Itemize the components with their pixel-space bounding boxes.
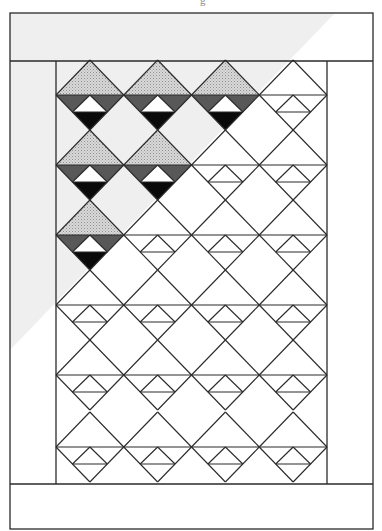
small-triangle-edge [276,375,293,392]
diamond-edge [90,270,124,305]
small-triangle-edge [225,235,242,252]
small-triangle-edge [276,235,293,252]
small-triangle-edge [158,235,175,252]
small-triangle-edge [293,305,310,322]
small-triangle-edge [158,305,175,322]
diamond-edge [293,60,327,95]
diamond-edge [259,200,293,235]
small-triangle-edge [293,447,310,464]
small-triangle-edge [293,95,310,112]
diamond-edge [158,270,192,305]
small-triangle-edge [276,305,293,322]
small-triangle-edge [293,165,310,182]
diamond-edge [293,340,327,375]
small-triangle-edge [158,375,175,392]
small-triangle-edge [208,305,225,322]
small-triangle-edge [293,375,310,392]
diamond-edge [259,270,293,305]
small-triangle-edge [276,165,293,182]
small-triangle-edge [208,447,225,464]
diamond-edge [192,270,226,305]
small-triangle-edge [72,305,89,322]
small-triangle-edge [276,95,293,112]
small-triangle-edge [208,165,225,182]
diamond-edge [225,200,259,235]
diamond-edge [124,270,158,305]
small-triangle-edge [90,375,107,392]
small-triangle-edge [140,235,157,252]
small-triangle-edge [158,447,175,464]
small-triangle-edge [72,447,89,464]
small-triangle-edge [225,305,242,322]
small-triangle-edge [225,447,242,464]
small-triangle-edge [90,447,107,464]
small-triangle-edge [225,165,242,182]
diamond-edge [56,412,90,447]
diamond-edge [56,340,90,375]
small-triangle-edge [208,235,225,252]
small-triangle-edge [72,375,89,392]
small-triangle-edge [293,235,310,252]
small-triangle-edge [90,305,107,322]
diamond-edge [158,200,192,235]
diamond-edge [90,340,124,375]
diamond-edge [158,412,192,447]
diamond-edge [225,340,259,375]
diamond-edge [259,412,293,447]
diamond-edge [90,412,124,447]
small-triangle-edge [140,375,157,392]
quilt-diagram [0,0,382,531]
diamond-edge [293,130,327,165]
small-triangle-edge [140,447,157,464]
diamond-edge [293,270,327,305]
small-triangle-edge [225,375,242,392]
diamond-edge [158,340,192,375]
small-triangle-edge [140,305,157,322]
diamond-edge [225,130,259,165]
diamond-edge [259,130,293,165]
small-triangle-edge [276,447,293,464]
diamond-edge [192,200,226,235]
diamond-edge [192,412,226,447]
diamond-edge [293,200,327,235]
diamond-edge [293,412,327,447]
diamond-edge [192,340,226,375]
diamond-edge [259,340,293,375]
diamond-edge [225,412,259,447]
diamond-edge [225,270,259,305]
diamond-edge [124,412,158,447]
diamond-edge [124,340,158,375]
small-triangle-edge [208,375,225,392]
